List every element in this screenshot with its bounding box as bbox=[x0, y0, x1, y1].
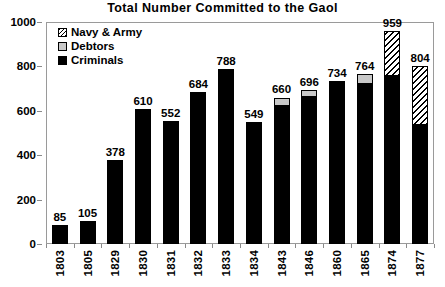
bar-value-label: 764 bbox=[355, 60, 374, 72]
x-tick-label: 1830 bbox=[137, 250, 149, 276]
bar-group[interactable]: 549 bbox=[246, 22, 262, 244]
bar-stack bbox=[163, 121, 179, 244]
x-tick-mark bbox=[268, 244, 269, 248]
bar-value-label: 804 bbox=[411, 52, 430, 64]
x-tick-mark bbox=[74, 244, 75, 248]
bar-segment-criminals bbox=[107, 160, 123, 244]
x-tick-label: 1832 bbox=[192, 250, 204, 276]
bar-segment-criminals bbox=[163, 121, 179, 244]
x-tick-label: 1874 bbox=[386, 250, 398, 276]
bar-segment-criminals bbox=[80, 221, 96, 244]
bar-value-label: 549 bbox=[244, 108, 263, 120]
x-axis: 1803180518291830183118321833183418431846… bbox=[46, 244, 434, 287]
bar-stack bbox=[52, 225, 68, 244]
x-tick-label: 1865 bbox=[359, 250, 371, 276]
bar-stack bbox=[218, 69, 234, 244]
bar-stack bbox=[357, 74, 373, 244]
bar-segment-criminals bbox=[329, 81, 345, 244]
bar-value-label: 734 bbox=[327, 67, 346, 79]
bar-stack bbox=[329, 81, 345, 244]
x-tick-label: 1803 bbox=[54, 250, 66, 276]
bar-stack bbox=[80, 221, 96, 244]
bar-group[interactable]: 696 bbox=[301, 22, 317, 244]
y-tick-mark bbox=[37, 200, 42, 201]
bar-group[interactable]: 764 bbox=[357, 22, 373, 244]
bar-stack bbox=[107, 160, 123, 244]
bar-stack bbox=[190, 92, 206, 244]
x-tick-mark bbox=[46, 244, 47, 248]
bar-stack bbox=[301, 90, 317, 245]
bar-group[interactable]: 105 bbox=[80, 22, 96, 244]
bar-stack bbox=[246, 122, 262, 244]
y-tick-label: 1000 bbox=[10, 16, 36, 28]
bar-value-label: 85 bbox=[53, 211, 66, 223]
bar-segment-debtors bbox=[274, 98, 290, 107]
x-tick-label: 1834 bbox=[248, 250, 260, 276]
y-tick-mark bbox=[37, 244, 42, 245]
bar-segment-criminals bbox=[190, 92, 206, 244]
bar-segment-criminals bbox=[412, 125, 428, 244]
chart-title: Total Number Committed to the Gaol bbox=[0, 1, 445, 15]
bar-segment-criminals bbox=[218, 69, 234, 244]
bar-value-label: 959 bbox=[383, 17, 402, 29]
x-tick-mark bbox=[185, 244, 186, 248]
x-tick-mark bbox=[212, 244, 213, 248]
bar-group[interactable]: 85 bbox=[52, 22, 68, 244]
x-tick-label: 1833 bbox=[220, 250, 232, 276]
bar-group[interactable]: 610 bbox=[135, 22, 151, 244]
x-tick-mark bbox=[351, 244, 352, 248]
x-tick-label: 1860 bbox=[331, 250, 343, 276]
y-tick-label: 0 bbox=[30, 238, 36, 250]
x-tick-label: 1846 bbox=[303, 250, 315, 276]
x-tick-mark bbox=[129, 244, 130, 248]
y-tick-label: 800 bbox=[17, 60, 36, 72]
bar-segment-navy-army bbox=[412, 66, 428, 125]
x-tick-mark bbox=[157, 244, 158, 248]
bar-value-label: 660 bbox=[272, 83, 291, 95]
bar-group[interactable]: 660 bbox=[274, 22, 290, 244]
bar-segment-criminals bbox=[52, 225, 68, 244]
bar-chart: Total Number Committed to the Gaol 02004… bbox=[0, 0, 445, 287]
x-tick-mark bbox=[379, 244, 380, 248]
bar-stack bbox=[274, 98, 290, 245]
bar-group[interactable]: 734 bbox=[329, 22, 345, 244]
bar-segment-criminals bbox=[274, 106, 290, 244]
bar-segment-navy-army bbox=[384, 31, 400, 76]
bar-group[interactable]: 788 bbox=[218, 22, 234, 244]
bars-layer: 8510537861055268478854966069673476495980… bbox=[46, 22, 434, 244]
bar-group[interactable]: 552 bbox=[163, 22, 179, 244]
x-tick-label: 1829 bbox=[109, 250, 121, 276]
bar-value-label: 105 bbox=[78, 207, 97, 219]
bar-segment-criminals bbox=[384, 76, 400, 244]
bar-group[interactable]: 804 bbox=[412, 22, 428, 244]
bar-group[interactable]: 959 bbox=[384, 22, 400, 244]
y-axis: 02004006008001000 bbox=[0, 22, 42, 244]
bar-value-label: 788 bbox=[217, 55, 236, 67]
y-tick-mark bbox=[37, 155, 42, 156]
x-tick-label: 1877 bbox=[414, 250, 426, 276]
bar-group[interactable]: 684 bbox=[190, 22, 206, 244]
bar-value-label: 684 bbox=[189, 78, 208, 90]
bar-value-label: 610 bbox=[133, 95, 152, 107]
bar-value-label: 552 bbox=[161, 107, 180, 119]
bar-value-label: 378 bbox=[106, 146, 125, 158]
x-tick-mark bbox=[323, 244, 324, 248]
y-tick-mark bbox=[37, 111, 42, 112]
bar-stack bbox=[135, 109, 151, 244]
x-tick-label: 1843 bbox=[276, 250, 288, 276]
y-tick-label: 400 bbox=[17, 149, 36, 161]
bar-segment-criminals bbox=[246, 122, 262, 244]
bar-segment-debtors bbox=[357, 74, 373, 83]
bar-value-label: 696 bbox=[300, 76, 319, 88]
bar-segment-criminals bbox=[357, 84, 373, 244]
y-tick-mark bbox=[37, 66, 42, 67]
x-tick-mark bbox=[295, 244, 296, 248]
x-tick-mark bbox=[240, 244, 241, 248]
y-tick-mark bbox=[37, 22, 42, 23]
x-tick-mark bbox=[101, 244, 102, 248]
y-tick-label: 200 bbox=[17, 194, 36, 206]
bar-stack bbox=[412, 66, 428, 244]
y-tick-label: 600 bbox=[17, 105, 36, 117]
bar-segment-criminals bbox=[135, 109, 151, 244]
bar-group[interactable]: 378 bbox=[107, 22, 123, 244]
